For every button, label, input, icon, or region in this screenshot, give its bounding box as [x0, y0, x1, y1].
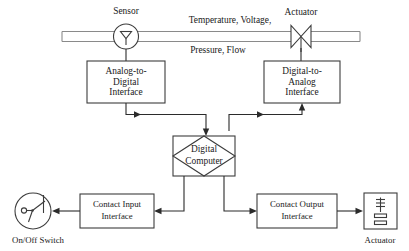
digital-computer: Digital Computer	[173, 136, 235, 176]
sensor-label: Sensor	[113, 6, 139, 16]
contact-input-to-switch-wire	[52, 208, 80, 214]
contact-output-line-1: Contact Output	[270, 199, 325, 209]
adc-line-3: Interface	[109, 87, 142, 97]
dac-line-1: Digital-to-	[282, 66, 322, 76]
actuator-box-label: Actuator	[365, 235, 396, 245]
digital-to-analog-interface: Digital-to- Analog Interface	[264, 61, 340, 103]
computer-to-contact-output-wire	[224, 176, 257, 214]
contact-input-interface: Contact Input Interface	[80, 194, 154, 228]
process-control-diagram: Sensor Actuator Temperature, Voltage, Pr…	[0, 0, 409, 251]
analog-to-digital-interface: Analog-to- Digital Interface	[87, 61, 165, 103]
adc-line-1: Analog-to-	[105, 66, 146, 76]
dac-line-2: Analog	[288, 77, 316, 87]
process-pipe	[62, 32, 360, 42]
contact-output-to-actuator-wire	[337, 208, 363, 214]
onoff-switch-icon	[15, 193, 51, 229]
computer-to-contact-input-wire	[154, 176, 184, 214]
contact-input-line-1: Contact Input	[93, 199, 142, 209]
diagram-canvas: Sensor Actuator Temperature, Voltage, Pr…	[0, 0, 409, 251]
sensor-circle-icon	[114, 24, 139, 49]
signal-label-top: Temperature, Voltage,	[189, 15, 272, 25]
computer-to-dac-wire	[229, 103, 305, 131]
actuator-box	[364, 193, 397, 229]
adc-line-2: Digital	[113, 77, 139, 87]
dac-line-3: Interface	[285, 87, 318, 97]
signal-label-bottom: Pressure, Flow	[190, 45, 246, 55]
contact-input-line-2: Interface	[101, 211, 132, 221]
computer-line-2: Computer	[185, 156, 223, 166]
actuator-valve-label: Actuator	[285, 7, 319, 17]
computer-line-1: Digital	[191, 144, 217, 154]
onoff-switch-label: On/Off Switch	[12, 235, 64, 245]
contact-output-interface: Contact Output Interface	[257, 194, 337, 228]
contact-output-line-2: Interface	[281, 211, 312, 221]
adc-to-computer-wire	[126, 103, 209, 136]
